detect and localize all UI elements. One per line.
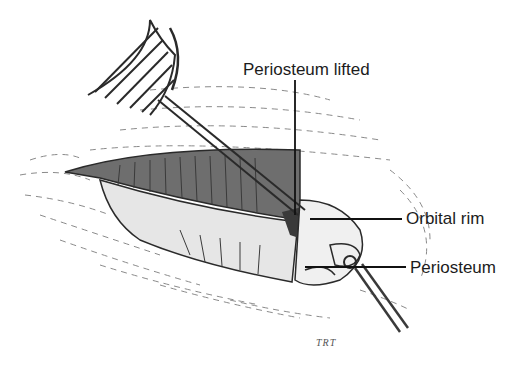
- label-periosteum: Periosteum: [410, 259, 496, 276]
- artist-signature: TRT: [316, 337, 336, 348]
- orbital-rim-shape: [295, 200, 363, 285]
- surgical-illustration: Periosteum lifted Orbital rim Periosteum…: [0, 0, 530, 365]
- label-orbital-rim: Orbital rim: [406, 210, 484, 227]
- illustration-drawing: [0, 0, 530, 365]
- retractor-icon: [88, 20, 178, 115]
- label-periosteum-lifted: Periosteum lifted: [243, 61, 370, 78]
